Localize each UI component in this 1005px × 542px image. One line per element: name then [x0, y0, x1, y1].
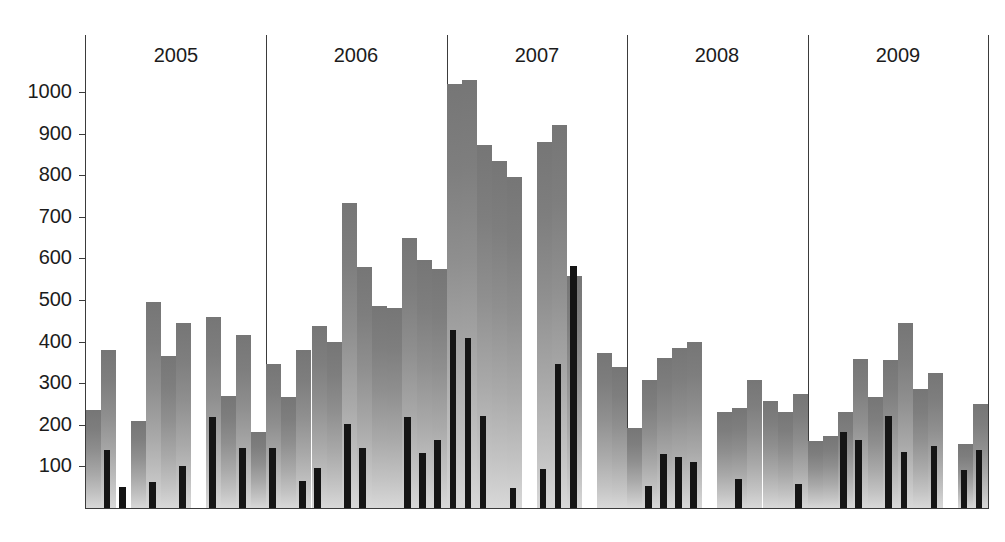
bar-group[interactable] [522, 35, 537, 508]
bar-group[interactable] [657, 35, 672, 508]
bar-subset[interactable] [690, 462, 697, 508]
bar-group[interactable] [447, 35, 462, 508]
bar-subset[interactable] [675, 457, 682, 508]
bar-subset[interactable] [540, 469, 547, 508]
bar-group[interactable] [778, 35, 793, 508]
bar-group[interactable] [507, 35, 522, 508]
bar-total[interactable] [597, 353, 612, 508]
bar-total[interactable] [913, 389, 928, 508]
bar-total[interactable] [717, 412, 732, 508]
bar-subset[interactable] [269, 448, 276, 508]
bar-subset[interactable] [840, 432, 847, 508]
bar-group[interactable] [296, 35, 311, 508]
bar-total[interactable] [146, 302, 161, 508]
bar-total[interactable] [868, 397, 883, 508]
bar-subset[interactable] [149, 482, 156, 508]
bar-group[interactable] [582, 35, 597, 508]
bar-subset[interactable] [855, 440, 862, 508]
bar-group[interactable] [823, 35, 838, 508]
bar-group[interactable] [567, 35, 582, 508]
bar-group[interactable] [687, 35, 702, 508]
bar-group[interactable] [838, 35, 853, 508]
bar-total[interactable] [131, 421, 146, 508]
bar-subset[interactable] [645, 486, 652, 508]
bar-group[interactable] [973, 35, 988, 508]
bar-total[interactable] [251, 432, 266, 508]
bar-group[interactable] [101, 35, 116, 508]
bar-group[interactable] [462, 35, 477, 508]
bar-subset[interactable] [404, 417, 411, 508]
bar-group[interactable] [868, 35, 883, 508]
bar-group[interactable] [943, 35, 958, 508]
bar-group[interactable] [763, 35, 778, 508]
bar-total[interactable] [808, 441, 823, 508]
bar-group[interactable] [747, 35, 762, 508]
bar-subset[interactable] [555, 364, 562, 508]
bar-total[interactable] [221, 396, 236, 508]
bar-total[interactable] [372, 306, 387, 508]
bar-group[interactable] [883, 35, 898, 508]
bar-subset[interactable] [570, 266, 577, 508]
bar-group[interactable] [853, 35, 868, 508]
bar-subset[interactable] [961, 470, 968, 508]
bar-total[interactable] [778, 412, 793, 508]
bar-group[interactable] [86, 35, 101, 508]
bar-group[interactable] [312, 35, 327, 508]
bar-subset[interactable] [480, 416, 487, 508]
bar-subset[interactable] [885, 416, 892, 508]
bar-group[interactable] [266, 35, 281, 508]
bar-subset[interactable] [239, 448, 246, 508]
bar-subset[interactable] [104, 450, 111, 508]
bar-total[interactable] [537, 142, 552, 508]
bar-subset[interactable] [976, 450, 983, 508]
bar-subset[interactable] [359, 448, 366, 508]
bar-group[interactable] [432, 35, 447, 508]
bar-group[interactable] [327, 35, 342, 508]
bar-subset[interactable] [465, 338, 472, 508]
bar-subset[interactable] [314, 468, 321, 508]
bar-group[interactable] [793, 35, 808, 508]
bar-group[interactable] [477, 35, 492, 508]
bar-group[interactable] [206, 35, 221, 508]
bar-subset[interactable] [450, 330, 457, 508]
bar-group[interactable] [702, 35, 717, 508]
bar-group[interactable] [146, 35, 161, 508]
bar-subset[interactable] [179, 466, 186, 508]
bar-group[interactable] [913, 35, 928, 508]
bar-group[interactable] [176, 35, 191, 508]
bar-group[interactable] [161, 35, 176, 508]
bar-group[interactable] [642, 35, 657, 508]
bar-subset[interactable] [901, 452, 908, 508]
bar-total[interactable] [492, 161, 507, 508]
bar-group[interactable] [281, 35, 296, 508]
bar-total[interactable] [627, 428, 642, 508]
bar-subset[interactable] [419, 453, 426, 508]
bar-total[interactable] [161, 356, 176, 508]
bar-group[interactable] [342, 35, 357, 508]
bar-group[interactable] [251, 35, 266, 508]
bar-total[interactable] [86, 410, 101, 508]
bar-total[interactable] [327, 342, 342, 508]
bar-group[interactable] [372, 35, 387, 508]
bar-group[interactable] [597, 35, 612, 508]
bar-subset[interactable] [510, 488, 517, 508]
bar-subset[interactable] [735, 479, 742, 508]
bar-subset[interactable] [344, 424, 351, 508]
bar-group[interactable] [717, 35, 732, 508]
bar-group[interactable] [958, 35, 973, 508]
bar-group[interactable] [552, 35, 567, 508]
bar-total[interactable] [612, 367, 627, 508]
bar-total[interactable] [747, 380, 762, 508]
bar-group[interactable] [191, 35, 206, 508]
bar-total[interactable] [507, 177, 522, 508]
bar-group[interactable] [417, 35, 432, 508]
bar-subset[interactable] [931, 446, 938, 508]
bar-subset[interactable] [434, 440, 441, 508]
bar-group[interactable] [221, 35, 236, 508]
bar-group[interactable] [537, 35, 552, 508]
bar-group[interactable] [732, 35, 747, 508]
bar-total[interactable] [387, 308, 402, 508]
bar-subset[interactable] [119, 487, 126, 508]
bar-group[interactable] [612, 35, 627, 508]
bar-group[interactable] [928, 35, 943, 508]
